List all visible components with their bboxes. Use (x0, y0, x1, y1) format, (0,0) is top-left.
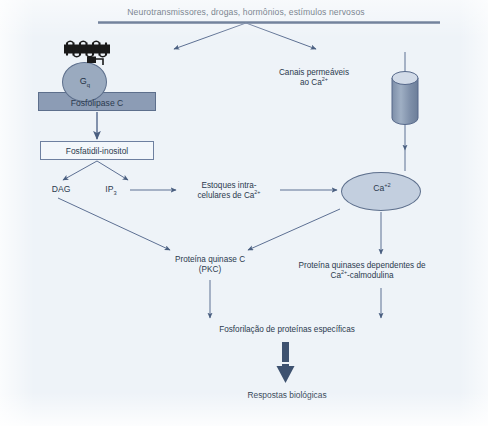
calcium-ion-label: Ca+2 (342, 183, 422, 193)
ion-channel-cylinder-icon (390, 70, 420, 126)
calcium-channel-label-line2: ao Ca2+ (300, 78, 328, 87)
calcium-channel-label-line1: Canais permeáveis (279, 68, 349, 77)
connector-pi-to-ip3 (97, 161, 128, 180)
calcium-stores-line2: celulares de Ca2+ (197, 191, 260, 200)
camk-line1: Proteína quinases dependentes de (298, 261, 425, 270)
phospholipase-c-label: Fosfolipase C (42, 98, 152, 108)
protein-kinase-c-label: Proteína quinase C (PKC) (152, 255, 268, 275)
seven-transmembrane-receptor-icon (62, 38, 116, 66)
calcium-stores-label: Estoques intra- celulares de Ca2+ (182, 181, 276, 201)
pkc-line2: (PKC) (199, 265, 221, 274)
calcium-channel-label: Canais permeáveis ao Ca2+ (262, 68, 366, 88)
connector-stimulus-to-receptor (174, 23, 246, 49)
phosphatidyl-inositol-label: Fosfatidil-inositol (44, 146, 150, 156)
g-protein-label: Gq (70, 76, 100, 87)
connector-dag-to-pkc (58, 198, 170, 250)
dag-label: DAG (40, 184, 82, 194)
phosphorylation-label: Fosforilação de proteínas específicas (192, 325, 382, 335)
connector-pi-to-dag (63, 161, 97, 180)
calmodulin-kinases-label: Proteína quinases dependentes de Ca2+-ca… (280, 261, 444, 281)
diagram-canvas: Neurotransmissores, drogas, hormônios, e… (0, 0, 488, 426)
connector-calcium-to-pkc (248, 209, 340, 250)
thick-down-arrow-icon (277, 342, 295, 383)
calcium-stores-line1: Estoques intra- (201, 181, 256, 190)
ip3-label: IP3 (96, 184, 126, 194)
biological-responses-label: Respostas biológicas (222, 390, 352, 400)
camk-line2: Ca2+-calmodulina (330, 271, 393, 280)
stimulus-header-label: Neurotransmissores, drogas, hormônios, e… (96, 7, 396, 17)
connector-stimulus-to-channel (246, 23, 316, 49)
pkc-line1: Proteína quinase C (175, 255, 245, 264)
